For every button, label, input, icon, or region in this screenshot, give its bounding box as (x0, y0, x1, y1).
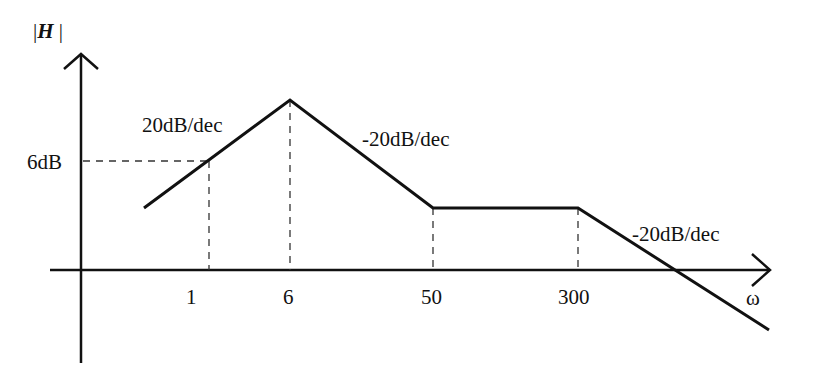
x-tick-300: 300 (558, 285, 590, 309)
x-axis-label: ω (746, 286, 760, 310)
x-tick-50: 50 (421, 285, 442, 309)
bode-plot: |H | ω 6dB 1 6 50 300 20dB/dec -20dB/dec… (0, 0, 820, 385)
x-tick-1: 1 (186, 285, 197, 309)
slope-label-falling-1: -20dB/dec (362, 127, 449, 151)
slope-label-rising: 20dB/dec (142, 113, 222, 137)
y-marker-6db: 6dB (27, 150, 62, 174)
slope-label-falling-2: -20dB/dec (632, 222, 719, 246)
y-axis-label: |H | (33, 19, 63, 43)
magnitude-curve (144, 100, 769, 330)
x-tick-6: 6 (283, 285, 294, 309)
